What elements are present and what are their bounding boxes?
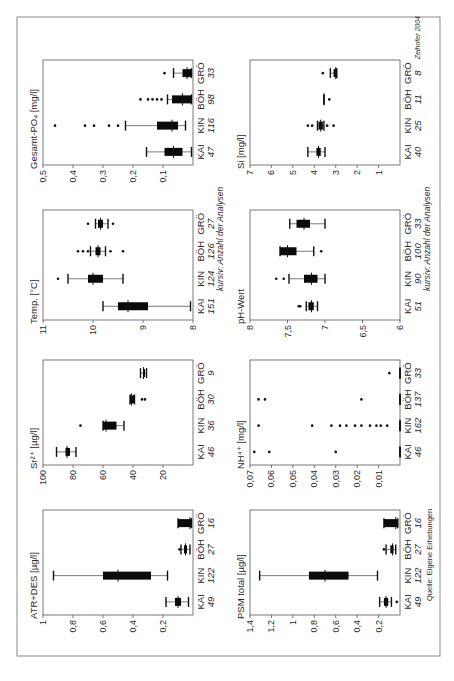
iqr-box: [304, 275, 318, 283]
analysis-count: 25: [412, 120, 423, 132]
figure-page: 0,20,40,60,81ATR+DES [µg/l]KAI49KIN122BÖ…: [0, 0, 454, 681]
y-tick-label: 3: [331, 170, 341, 175]
outlier-point: [330, 424, 333, 427]
y-tick-label: 6: [395, 325, 405, 330]
analysis-count: 16: [205, 517, 216, 528]
y-tick-label: 0,4: [352, 620, 362, 633]
outlier-point: [84, 124, 87, 127]
outlier-point: [282, 277, 285, 280]
y-tick-label: 0,3: [98, 170, 108, 183]
y-tick-label: 0,07: [245, 470, 255, 488]
panel-title: pH-Wert: [235, 288, 246, 324]
outlier-point: [77, 250, 80, 253]
y-tick-label: 1,2: [266, 620, 276, 633]
panel-po4: 0,10,20,30,40,5Gesamt-PO₄ [mg/l]KAI47KIN…: [28, 60, 216, 183]
panel-ph: 66,577,58pH-WertKAI51KIN90BÖH100GRÖ33: [235, 210, 423, 338]
outlier-point: [388, 372, 391, 375]
outlier-point: [93, 124, 96, 127]
iqr-box: [280, 247, 297, 255]
panel-title: Gesamt-PO₄ [mg/l]: [28, 89, 39, 169]
y-tick-label: 7: [320, 325, 330, 330]
analysis-count: 47: [205, 146, 216, 157]
y-tick-label: 8: [188, 325, 198, 330]
analysis-count: 46: [205, 446, 216, 457]
plot-area: [250, 360, 400, 465]
iqr-box: [334, 69, 337, 77]
outlier-point: [79, 424, 82, 427]
plot-area: [250, 510, 400, 615]
outlier-point: [375, 424, 378, 427]
outlier-point: [369, 424, 372, 427]
y-tick-label: 8: [245, 325, 255, 330]
analysis-count: 27: [412, 543, 423, 555]
y-tick-label: 11: [38, 325, 48, 334]
iqr-box: [297, 220, 311, 228]
iqr-box: [390, 545, 393, 553]
outlier-point: [339, 424, 342, 427]
outlier-point: [151, 98, 154, 101]
outlier-point: [297, 305, 300, 308]
iqr-box: [172, 95, 192, 103]
outlier-point: [178, 548, 181, 551]
boxplot-figure: 0,20,40,60,81ATR+DES [µg/l]KAI49KIN122BÖ…: [0, 0, 454, 681]
panel-temp: 891011Temp. [°C]KAI151KIN124BÖH126GRÖ27: [28, 210, 216, 335]
outlier-point: [354, 424, 357, 427]
panel-title: PSM total [µg/l]: [235, 554, 246, 619]
panel-sr: 20406080100Sr²⁺ [µg/l]KAI46KIN36BÖH30GRÖ…: [28, 360, 216, 485]
y-tick-label: 0,2: [158, 620, 168, 633]
y-tick-label: 1: [374, 170, 384, 175]
count-note-right: kursiv: Anzahl der Analysen: [422, 186, 432, 291]
outlier-point: [144, 398, 147, 401]
outlier-point: [383, 548, 386, 551]
y-tick-label: 10: [88, 325, 98, 335]
panel-title: Si [mg/l]: [235, 135, 246, 169]
outlier-point: [253, 451, 256, 454]
y-tick-label: 0,8: [309, 620, 319, 633]
outlier-point: [108, 124, 111, 127]
panel-nh4: 0,010,020,030,040,050,060,07NH⁴⁺ [mg/l]K…: [235, 360, 423, 488]
y-tick-label: 7: [245, 170, 255, 175]
plot-area: [43, 510, 193, 615]
panel-atr: 0,20,40,60,81ATR+DES [µg/l]KAI49KIN122BÖ…: [28, 510, 216, 633]
analysis-count: 46: [412, 446, 423, 457]
y-tick-label: 0,5: [38, 170, 48, 183]
outlier-point: [326, 124, 329, 127]
iqr-box: [103, 422, 117, 430]
y-tick-label: 60: [98, 470, 108, 480]
y-tick-label: 6,5: [358, 325, 368, 338]
y-tick-label: 1: [38, 620, 48, 625]
iqr-box: [309, 572, 349, 580]
analysis-count: 116: [205, 117, 216, 133]
outlier-point: [87, 250, 90, 253]
outlier-point: [360, 398, 363, 401]
analysis-count: 16: [412, 517, 423, 528]
outlier-point: [257, 398, 260, 401]
analysis-count: 122: [205, 567, 216, 584]
analysis-count: 137: [412, 391, 423, 408]
y-tick-label: 0,04: [309, 470, 319, 488]
analysis-count: 49: [205, 596, 216, 607]
iqr-box: [103, 572, 151, 580]
panels: 0,20,40,60,81ATR+DES [µg/l]KAI49KIN122BÖ…: [28, 60, 423, 633]
analysis-count: 8: [412, 70, 423, 76]
outlier-point: [379, 424, 382, 427]
y-tick-label: 0,2: [128, 170, 138, 183]
outlier-point: [141, 398, 144, 401]
outlier-point: [54, 124, 57, 127]
iqr-box: [88, 275, 103, 283]
outlier-point: [156, 98, 159, 101]
panel-title: Temp. [°C]: [28, 280, 39, 324]
y-tick-label: 7,5: [283, 325, 293, 338]
analysis-count: 27: [205, 543, 216, 555]
panel-si: 1234567Si [mg/l]KAI40KIN25BÖH11GRÖ8: [235, 60, 423, 175]
panel-title: ATR+DES [µg/l]: [28, 552, 39, 619]
outlier-point: [122, 250, 125, 253]
outlier-point: [345, 424, 348, 427]
analysis-count: 40: [412, 146, 423, 157]
outlier-point: [112, 222, 115, 225]
y-tick-label: 0,03: [331, 470, 341, 488]
outlier-point: [109, 250, 112, 253]
iqr-box: [130, 395, 135, 403]
outlier-point: [147, 98, 150, 101]
count-note-left: kursiv: Anzahl der Analysen: [215, 186, 225, 291]
